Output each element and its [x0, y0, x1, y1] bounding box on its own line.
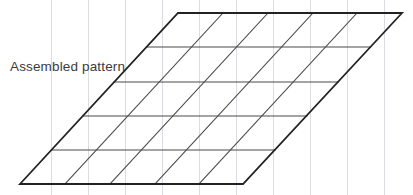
parallelogram-grid-svg	[0, 0, 413, 195]
assembled-pattern-figure: Assembled pattern	[0, 0, 413, 195]
grid-diagonal-line	[110, 13, 268, 184]
grid-diagonal-lines	[65, 13, 357, 184]
grid-diagonal-line	[155, 13, 313, 184]
grid-diagonal-line	[199, 13, 357, 184]
vertical-guide-lines	[52, 0, 385, 195]
assembled-pattern-label: Assembled pattern	[10, 60, 125, 74]
parallelogram-outline	[20, 13, 402, 184]
